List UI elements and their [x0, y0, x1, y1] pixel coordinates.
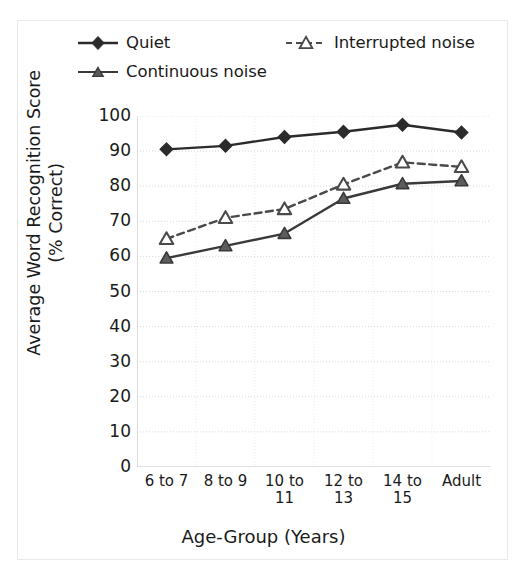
x-tick-label-5: Adult — [429, 473, 495, 490]
x-tick-label-0: 6 to 7 — [134, 473, 200, 490]
y-tick-label-100: 100 — [85, 107, 131, 124]
gridlines — [137, 116, 491, 467]
y-tick-label-70: 70 — [85, 212, 131, 229]
plot-container: 1009080706050403020100 6 to 78 to 910 to… — [18, 21, 509, 561]
x-tick-label-2-line2: 11 — [252, 490, 318, 507]
y-tick-label-90: 90 — [85, 142, 131, 159]
y-axis-title-line2: (% Correct) — [46, 53, 68, 373]
y-tick-label-20: 20 — [85, 388, 131, 405]
x-tick-label-4: 14 to15 — [370, 473, 436, 508]
x-axis-title: Age-Group (Years) — [18, 526, 509, 547]
y-axis-title: Average Word Recognition Score (% Correc… — [24, 53, 68, 373]
plot-area — [137, 116, 491, 467]
chart-svg — [137, 116, 491, 467]
y-tick-label-10: 10 — [85, 423, 131, 440]
marker-point-0-2 — [278, 131, 291, 144]
x-tick-label-4-line1: 14 to — [370, 473, 436, 490]
y-tick-label-80: 80 — [85, 177, 131, 194]
y-axis-title-line1: Average Word Recognition Score — [24, 53, 46, 373]
marker-point-0-1 — [219, 139, 232, 152]
marker-point-0-0 — [160, 143, 173, 156]
x-tick-label-0-line1: 6 to 7 — [134, 473, 200, 490]
marker-point-0-3 — [337, 125, 350, 138]
marker-point-0-5 — [455, 126, 468, 139]
y-tick-label-60: 60 — [85, 247, 131, 264]
marker-point-1-1 — [219, 211, 232, 223]
x-tick-label-3-line2: 13 — [311, 490, 377, 507]
marker-point-0-4 — [396, 118, 409, 131]
series-line-2 — [167, 181, 462, 258]
marker-point-2-2 — [278, 227, 291, 238]
x-tick-label-3: 12 to13 — [311, 473, 377, 508]
y-tick-label-40: 40 — [85, 318, 131, 335]
x-tick-label-2: 10 to11 — [252, 473, 318, 508]
x-tick-label-4-line2: 15 — [370, 490, 436, 507]
x-tick-label-3-line1: 12 to — [311, 473, 377, 490]
x-tick-label-5-line1: Adult — [429, 473, 495, 490]
y-tick-label-30: 30 — [85, 353, 131, 370]
y-tick-label-0: 0 — [85, 458, 131, 475]
y-tick-label-50: 50 — [85, 283, 131, 300]
x-tick-label-2-line1: 10 to — [252, 473, 318, 490]
chart-figure: Quiet Interrupted noise Continuous noise — [17, 20, 508, 560]
x-tick-label-1: 8 to 9 — [193, 473, 259, 490]
x-tick-label-1-line1: 8 to 9 — [193, 473, 259, 490]
